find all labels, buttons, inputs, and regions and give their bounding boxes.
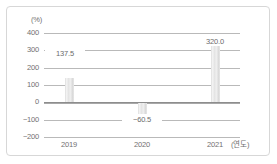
y-axis-tick-100: 100 [5,81,39,89]
gridline-400 [44,33,240,34]
bar-value-label-2020: −60.5 [122,116,162,124]
y-axis-tick-neg100: −100 [5,116,39,124]
y-axis-tick-300: 300 [5,46,39,54]
bar-value-label-2019: 137.5 [45,50,85,58]
x-axis-tick-2019: 2019 [47,141,91,149]
y-axis-tick-400: 400 [5,29,39,37]
x-axis-tick-2020: 2020 [120,141,164,149]
y-axis-unit-label: (%) [31,16,42,24]
gridline-neg200 [44,137,240,138]
chart-figure: (%) 400 300 200 100 0 −100 −200 137.5 −6… [0,0,277,164]
y-axis-tick-200: 200 [5,64,39,72]
y-axis-tick-0: 0 [5,98,39,106]
bar-2021 [211,46,220,102]
y-axis-tick-neg200: −200 [5,133,39,141]
bar-2019 [65,78,74,102]
bar-value-label-2021: 320.0 [195,38,235,46]
x-axis-unit-label: (연도) [231,141,249,149]
bar-2020 [138,103,147,114]
